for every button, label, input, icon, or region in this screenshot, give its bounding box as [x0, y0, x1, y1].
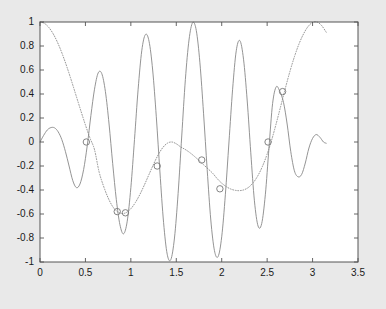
y-tick-label: -0.2: [0, 161, 34, 171]
x-tick-label: 1: [128, 268, 134, 278]
y-tick-label: 0.4: [0, 89, 34, 99]
x-tick-label: 2.5: [260, 268, 274, 278]
y-tick-label: -0.8: [0, 233, 34, 243]
x-tick-label: 3.5: [351, 268, 365, 278]
figure-canvas: -1-0.8-0.6-0.4-0.200.20.40.60.81 00.511.…: [0, 0, 386, 309]
x-tick-label: 2: [219, 268, 225, 278]
y-tick-label: 0.6: [0, 65, 34, 75]
y-tick-label: 1: [0, 17, 34, 27]
x-tick-label: 0: [37, 268, 43, 278]
plot-area: [0, 0, 386, 309]
x-tick-label: 0.5: [78, 268, 92, 278]
y-tick-label: 0.2: [0, 113, 34, 123]
y-tick-label: 0: [0, 137, 34, 147]
x-tick-label: 3: [310, 268, 316, 278]
x-tick-label: 1.5: [169, 268, 183, 278]
y-tick-label: -0.6: [0, 209, 34, 219]
y-tick-label: -1: [0, 257, 34, 267]
y-tick-label: 0.8: [0, 41, 34, 51]
y-tick-label: -0.4: [0, 185, 34, 195]
